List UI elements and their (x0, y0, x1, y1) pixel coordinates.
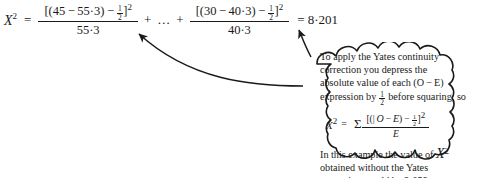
arrow-to-first-correction-term (139, 34, 303, 86)
fraction-term-2-denominator: 40·3 (222, 22, 257, 37)
bubble-fraction: [(| O − E) − 12]2 E (362, 110, 429, 140)
bubble-paragraph-2: In this example the value of X2 obtained… (320, 145, 468, 178)
equals-sign: = (24, 12, 31, 28)
one-half-fraction: 12 (268, 5, 274, 21)
bubble-formula-equals: = (341, 118, 347, 131)
plus-sign-right: + (176, 12, 183, 28)
fraction-term-2: [(30 − 40·3) − 12]2 40·3 (190, 2, 290, 37)
result: = 8·201 (297, 12, 338, 28)
sigma-symbol: Σ (354, 116, 362, 132)
bubble-fraction-numerator: [(| O − E) − 12]2 (362, 110, 429, 128)
bubble-p2-line2: obtained without the Yates (320, 162, 468, 175)
yates-correction-callout-bubble: To apply the Yates continuity correction… (303, 42, 481, 178)
ellipsis: … (157, 12, 170, 28)
bubble-p1-line3: absolute value of each (O − E) (320, 77, 468, 90)
bubble-p1-line1: To apply the Yates continuity (320, 51, 468, 64)
one-half-fraction: 12 (117, 5, 123, 21)
fraction-term-2-numerator: [(30 − 40·3) − 12]2 (190, 2, 290, 21)
bubble-p1-line4: expression by 12 before squaring, so (320, 90, 468, 106)
bubble-fraction-denominator: E (389, 128, 403, 140)
bubble-text-content: To apply the Yates continuity correction… (320, 51, 468, 178)
plus-sign-left: + (144, 12, 151, 28)
one-half-fraction: 12 (379, 91, 385, 107)
bubble-p2-line1: In this example the value of X2 (320, 145, 468, 163)
fraction-term-1-denominator: 55·3 (71, 22, 106, 37)
bubble-paragraph-1: To apply the Yates continuity correction… (320, 51, 468, 106)
fraction-term-1-numerator: [(45 − 55·3) − 12]2 (38, 2, 138, 21)
bubble-p2-line3: correction would be 9·059. (320, 175, 468, 178)
bubble-formula: X2 = Σ [(| O − E) − 12]2 E (326, 110, 468, 140)
bubble-p1-line2: correction you depress the (320, 64, 468, 77)
main-equation: X2 = [(45 − 55·3) − 12]2 55·3 + … + [(30… (4, 2, 338, 37)
chi-square-symbol: X2 (4, 11, 17, 29)
fraction-term-1: [(45 − 55·3) − 12]2 55·3 (38, 2, 138, 37)
one-half-fraction: 12 (412, 114, 417, 127)
